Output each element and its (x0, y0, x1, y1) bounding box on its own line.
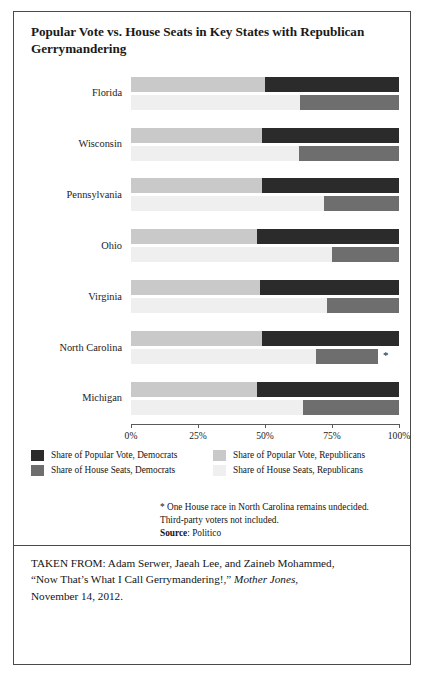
legend-swatch-icon (31, 465, 44, 476)
chart-row-group (131, 128, 399, 161)
category-label: Virginia (88, 292, 122, 302)
bar-segment-house-seats-republicans (131, 349, 316, 364)
chart-row-group (131, 229, 399, 262)
legend-swatch-icon (31, 450, 44, 461)
legend-label: Share of Popular Vote, Republicans (233, 450, 365, 460)
chart-row-group (131, 280, 399, 313)
legend-swatch-icon (213, 465, 226, 476)
page-title: Popular Vote vs. House Seats in Key Stat… (31, 23, 396, 58)
legend-row: Share of House Seats, Democrats Share of… (31, 465, 395, 476)
x-axis-tick (265, 424, 266, 428)
bar-house-seats (131, 349, 399, 364)
x-axis-tick (131, 424, 132, 428)
bar-house-seats (131, 247, 399, 262)
attribution-quote: “Now That’s What I Call Gerrymandering!,… (31, 573, 234, 585)
x-axis-tick (198, 424, 199, 428)
legend-row: Share of Popular Vote, Democrats Share o… (31, 450, 395, 461)
bar-segment-house-seats-republicans (131, 247, 332, 262)
source-line: Source: Politico (160, 527, 392, 540)
bars-area: * (131, 68, 399, 424)
legend-label: Share of House Seats, Democrats (51, 465, 175, 475)
bar-segment-house-seats-democrats (332, 247, 399, 262)
undecided-race-asterisk: * (383, 350, 389, 361)
legend-swatch-icon (213, 450, 226, 461)
footnote-third-party: Third-party voters not included. (160, 514, 392, 527)
attribution-comma: , (295, 573, 298, 585)
bar-popular-vote (131, 229, 399, 244)
x-axis-tick-label: 50% (256, 430, 274, 441)
x-axis-tick-label: 0% (125, 430, 138, 441)
bar-segment-popular-vote-republicans (131, 128, 262, 143)
attribution-line-2: “Now That’s What I Call Gerrymandering!,… (31, 571, 393, 587)
attribution-block: TAKEN FROM: Adam Serwer, Jaeah Lee, and … (31, 555, 393, 604)
bar-segment-house-seats-republicans (131, 95, 300, 110)
bar-segment-popular-vote-democrats (262, 178, 399, 193)
bar-segment-popular-vote-republicans (131, 280, 260, 295)
attribution-line-1: TAKEN FROM: Adam Serwer, Jaeah Lee, and … (31, 555, 393, 571)
bar-segment-popular-vote-democrats (257, 229, 399, 244)
chart-row-group (131, 178, 399, 211)
chart-notes: * One House race in North Carolina remai… (160, 501, 392, 541)
bar-segment-popular-vote-democrats (265, 77, 399, 92)
bar-house-seats (131, 298, 399, 313)
bar-segment-house-seats-republicans (131, 400, 303, 415)
legend-label: Share of Popular Vote, Democrats (51, 450, 177, 460)
bar-popular-vote (131, 178, 399, 193)
bar-segment-popular-vote-democrats (262, 331, 399, 346)
category-label: Florida (92, 88, 122, 98)
bar-popular-vote (131, 382, 399, 397)
bar-house-seats (131, 196, 399, 211)
category-label: Ohio (101, 241, 122, 251)
bar-popular-vote (131, 331, 399, 346)
x-axis-tick-label: 25% (189, 430, 207, 441)
source-value: Politico (192, 528, 221, 538)
chart-row-group (131, 331, 399, 364)
bar-segment-house-seats-democrats (300, 95, 399, 110)
bar-segment-popular-vote-democrats (257, 382, 399, 397)
bar-segment-popular-vote-republicans (131, 229, 257, 244)
x-axis-tick-label: 100% (388, 430, 410, 441)
bar-segment-popular-vote-republicans (131, 382, 257, 397)
bar-segment-house-seats-democrats (316, 349, 378, 364)
bar-segment-house-seats-republicans (131, 298, 327, 313)
chart-row-group (131, 77, 399, 110)
category-label: Wisconsin (79, 139, 122, 149)
legend-item-house-seats-democrats: Share of House Seats, Democrats (31, 465, 213, 476)
chart-plot: FloridaWisconsinPennsylvaniaOhioVirginia… (14, 68, 410, 440)
chart-legend: Share of Popular Vote, Democrats Share o… (31, 450, 395, 480)
bar-segment-house-seats-democrats (327, 298, 399, 313)
category-label-column: FloridaWisconsinPennsylvaniaOhioVirginia… (14, 68, 131, 424)
legend-label: Share of House Seats, Republicans (233, 465, 363, 475)
chart-row-group (131, 382, 399, 415)
legend-item-house-seats-republicans: Share of House Seats, Republicans (213, 465, 395, 476)
bar-segment-popular-vote-democrats (262, 128, 399, 143)
figure-frame: Popular Vote vs. House Seats in Key Stat… (13, 11, 411, 665)
legend-item-popular-vote-democrats: Share of Popular Vote, Democrats (31, 450, 213, 461)
x-axis-tick-label: 75% (323, 430, 341, 441)
section-divider (14, 545, 410, 546)
bar-segment-house-seats-republicans (131, 146, 299, 161)
bar-house-seats (131, 400, 399, 415)
bar-popular-vote (131, 128, 399, 143)
attribution-line-3: November 14, 2012. (31, 588, 393, 604)
x-axis-tick (332, 424, 333, 428)
bar-segment-popular-vote-republicans (131, 331, 262, 346)
bar-popular-vote (131, 280, 399, 295)
category-label: Michigan (82, 393, 122, 403)
bar-segment-house-seats-republicans (131, 196, 324, 211)
bar-segment-house-seats-democrats (303, 400, 399, 415)
category-label: North Carolina (59, 343, 122, 353)
x-axis-tick (399, 424, 400, 428)
legend-item-popular-vote-republicans: Share of Popular Vote, Republicans (213, 450, 395, 461)
bar-segment-house-seats-democrats (324, 196, 399, 211)
bar-house-seats (131, 95, 399, 110)
bar-segment-popular-vote-republicans (131, 178, 262, 193)
footnote-undecided: * One House race in North Carolina remai… (160, 501, 392, 514)
attribution-publication: Mother Jones (234, 573, 295, 585)
bar-segment-popular-vote-democrats (260, 280, 399, 295)
source-label: Source (160, 528, 187, 538)
bar-segment-house-seats-democrats (299, 146, 400, 161)
bar-popular-vote (131, 77, 399, 92)
bar-segment-popular-vote-republicans (131, 77, 265, 92)
bar-house-seats (131, 146, 399, 161)
